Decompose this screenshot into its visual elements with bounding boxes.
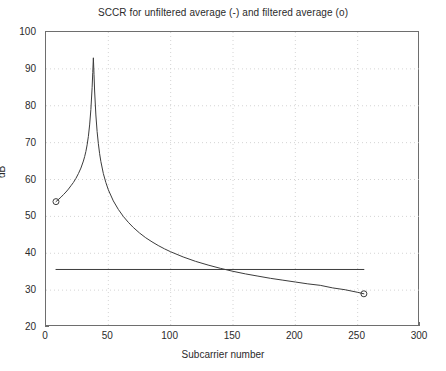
gridlines bbox=[46, 32, 420, 327]
y-tick-label: 80 bbox=[2, 99, 36, 110]
y-tick-label: 50 bbox=[2, 210, 36, 221]
x-axis-title: Subcarrier number bbox=[0, 349, 446, 360]
series-layer bbox=[56, 58, 364, 294]
y-tick-label: 70 bbox=[2, 136, 36, 147]
y-tick-label: 60 bbox=[2, 173, 36, 184]
y-tick-label: 90 bbox=[2, 62, 36, 73]
plot-svg bbox=[46, 32, 420, 327]
y-tick-label: 100 bbox=[2, 26, 36, 37]
x-tick-label: 300 bbox=[399, 330, 439, 341]
x-tick-label: 200 bbox=[274, 330, 314, 341]
x-tick-label: 100 bbox=[150, 330, 190, 341]
marker-layer bbox=[53, 199, 367, 297]
x-tick-label: 50 bbox=[87, 330, 127, 341]
y-tick-label: 40 bbox=[2, 247, 36, 258]
y-tick-label: 30 bbox=[2, 284, 36, 295]
x-tick-label: 150 bbox=[212, 330, 252, 341]
plot-area bbox=[45, 31, 419, 326]
x-tick-label: 0 bbox=[25, 330, 65, 341]
chart-title: SCCR for unfiltered average (-) and filt… bbox=[0, 7, 446, 18]
x-tick-label: 250 bbox=[337, 330, 377, 341]
figure-canvas: SCCR for unfiltered average (-) and filt… bbox=[0, 0, 446, 371]
